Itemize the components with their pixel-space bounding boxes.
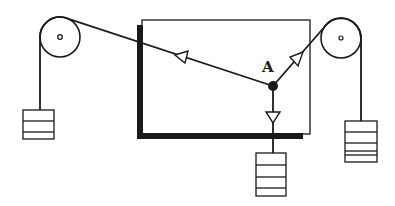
center-weight-stack (256, 153, 286, 196)
right-weight-box (345, 121, 377, 162)
left-weight-stack (23, 110, 54, 139)
knot-a (268, 81, 278, 91)
left-weight-box (23, 110, 54, 139)
right-pulley-axle-icon (339, 36, 343, 40)
right-weight-stack (345, 121, 377, 162)
point-a-label: A (262, 58, 274, 76)
left-pulley-axle-icon (58, 35, 63, 40)
board-surface (142, 20, 310, 134)
center-weight-box (256, 153, 286, 196)
board-shadow-bottom (137, 133, 303, 139)
board (137, 20, 310, 139)
pulley-diagram (0, 0, 395, 206)
